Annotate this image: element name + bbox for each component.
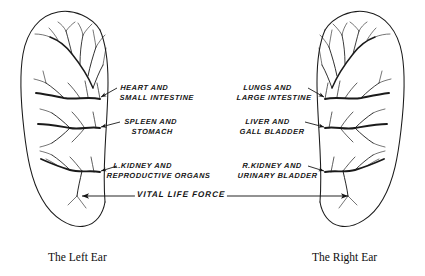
left-leader-lines bbox=[101, 88, 120, 171]
label-left-kidney-reproductive: L.KIDNEY ANDREPRODUCTIVE ORGANS bbox=[106, 161, 211, 180]
label-line-2: URINARY BLADDER bbox=[238, 171, 318, 180]
vital-life-force-label: VITAL LIFE FORCE bbox=[135, 190, 228, 199]
label-lungs-large-intestine: LUNGS ANDLARGE INTESTINE bbox=[236, 83, 312, 102]
diagram-artwork bbox=[0, 0, 425, 276]
left-ear-outline bbox=[21, 11, 108, 226]
leader-spleen bbox=[101, 122, 120, 127]
label-line-1: LUNGS AND bbox=[243, 83, 292, 93]
label-heart-small-intestine: HEART ANDSMALL INTESTINE bbox=[119, 83, 194, 102]
leader-heart bbox=[101, 88, 117, 97]
right-ear-nerve-branches bbox=[319, 22, 391, 208]
label-line-2: REPRODUCTIVE ORGANS bbox=[107, 171, 211, 180]
label-right-kidney-urinary-bladder: R.KIDNEY ANDURINARY BLADDER bbox=[237, 161, 318, 180]
label-line-1: SPLEEN AND bbox=[124, 117, 177, 126]
label-liver-gall-bladder: LIVER ANDGALL BLADDER bbox=[239, 117, 305, 136]
label-line-1: L.KIDNEY AND bbox=[113, 161, 172, 171]
right-ear-outline bbox=[317, 11, 404, 226]
label-line-1: LIVER AND bbox=[245, 117, 290, 127]
label-line-2: SMALL INTESTINE bbox=[120, 93, 195, 102]
label-spleen-stomach: SPLEEN ANDSTOMACH bbox=[123, 117, 177, 136]
label-line-1: R.KIDNEY AND bbox=[242, 161, 302, 171]
left-ear-nerve-branches bbox=[34, 22, 106, 208]
caption-left-ear: The Left Ear bbox=[48, 251, 107, 263]
label-line-2: STOMACH bbox=[131, 127, 173, 137]
leader-liver bbox=[305, 122, 324, 127]
ear-reflexology-figure: HEART ANDSMALL INTESTINE SPLEEN ANDSTOMA… bbox=[0, 0, 425, 276]
label-line-2: LARGE INTESTINE bbox=[237, 93, 312, 102]
label-line-1: HEART AND bbox=[120, 83, 169, 92]
label-line-2: GALL BLADDER bbox=[240, 127, 305, 136]
caption-right-ear: The Right Ear bbox=[312, 251, 377, 263]
